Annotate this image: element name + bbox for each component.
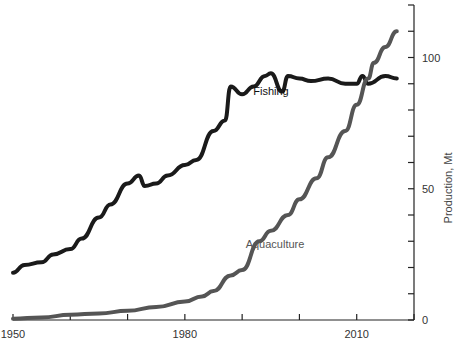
line-chart: 195019802010050100 FishingAquaculture Pr… <box>0 0 458 343</box>
x-tick-label: 1980 <box>173 328 197 340</box>
series-line-fishing <box>13 73 397 272</box>
y-axis-title: Production, Mt <box>442 153 454 224</box>
y-tick-label: 50 <box>422 183 434 195</box>
x-tick-label: 1950 <box>1 328 25 340</box>
y-tick-label: 0 <box>422 314 428 326</box>
series-label-aquaculture: Aquaculture <box>246 238 305 250</box>
y-tick-label: 100 <box>422 52 440 64</box>
series-labels: FishingAquaculture <box>246 85 305 250</box>
axes: 195019802010050100 <box>1 5 441 340</box>
x-tick-label: 2010 <box>344 328 368 340</box>
series-lines <box>13 31 397 318</box>
series-label-fishing: Fishing <box>253 85 288 97</box>
series-line-aquaculture <box>13 31 397 318</box>
